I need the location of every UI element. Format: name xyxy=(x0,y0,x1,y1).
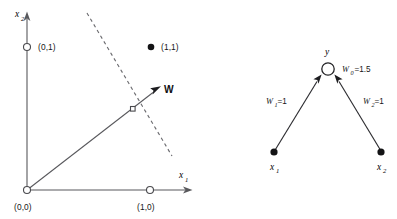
point-marker-filled xyxy=(148,44,155,51)
edge-x2-to-y xyxy=(334,74,381,151)
data-point-0-0: (0,0) xyxy=(14,187,32,213)
point-label-0-1: (0,1) xyxy=(38,42,56,52)
weight-vector-label: W xyxy=(164,84,174,95)
point-marker-open xyxy=(24,44,31,51)
edge-x1-to-y xyxy=(275,74,322,151)
weight-vector: W xyxy=(27,84,174,190)
point-label-1-0: (1,0) xyxy=(137,202,155,212)
weight-1-label: W 1 =1 xyxy=(266,97,287,108)
edge-x2-line xyxy=(339,82,381,152)
weight-1-symbol: W xyxy=(266,97,274,106)
weight-1-value: =1 xyxy=(278,97,288,106)
figure-container: x 2 x 1 W (0,0) (0,1) xyxy=(0,0,397,219)
output-node-circle xyxy=(322,63,334,75)
figure-svg: x 2 x 1 W (0,0) (0,1) xyxy=(0,0,397,219)
point-marker-open xyxy=(24,187,31,194)
x-axis-label-subscript: 1 xyxy=(185,176,188,183)
input-node-x1-dot xyxy=(270,148,277,155)
y-axis-label-subscript: 2 xyxy=(21,15,25,22)
y-axis-label: x xyxy=(14,9,20,19)
edge-x1-arrowhead xyxy=(313,74,321,83)
weight-2-label: W 2 =1 xyxy=(363,97,384,108)
data-point-0-1: (0,1) xyxy=(24,42,56,52)
point-label-0-0: (0,0) xyxy=(14,202,32,212)
perceptron-diagram: y W 0 =1.5 W 1 =1 W 2 =1 xyxy=(266,47,387,174)
input-node-x2-dot xyxy=(377,148,384,155)
edge-x1-line xyxy=(275,82,318,152)
point-marker-open xyxy=(147,187,154,194)
y-axis xyxy=(24,12,31,191)
input-node-x1: x 1 xyxy=(269,148,279,174)
bias-weight-symbol: W xyxy=(342,65,350,74)
weight-2-value: =1 xyxy=(375,97,385,106)
point-label-1-1: (1,1) xyxy=(161,42,179,52)
x-axis xyxy=(27,187,193,194)
input-node-x1-label: x xyxy=(269,162,275,172)
weight-2-symbol: W xyxy=(363,97,371,106)
bias-weight-label: W 0 =1.5 xyxy=(342,65,371,76)
boundary-intersection-marker xyxy=(131,107,136,112)
input-node-x2-subscript: 2 xyxy=(383,167,387,174)
decision-boundary-dashed-line xyxy=(87,13,172,156)
input-node-x1-subscript: 1 xyxy=(276,167,279,174)
input-node-x2: x 2 xyxy=(376,148,387,174)
input-node-x2-label: x xyxy=(376,162,382,172)
bias-weight-value: =1.5 xyxy=(355,65,372,74)
output-node: y xyxy=(322,47,334,75)
output-node-label: y xyxy=(324,47,330,57)
edge-x2-arrowhead xyxy=(334,74,342,83)
x-axis-label: x xyxy=(178,170,184,180)
decision-boundary-plot: x 2 x 1 W (0,0) (0,1) xyxy=(14,9,193,212)
data-point-1-1: (1,1) xyxy=(148,42,179,52)
